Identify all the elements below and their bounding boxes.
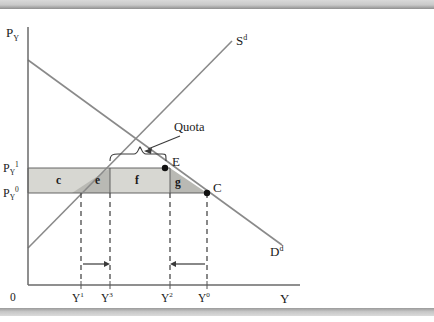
region-label-c: c [56,175,61,187]
point-E-marker [162,165,168,171]
price-label-p0: PY0 [3,186,19,202]
quota-arrow [144,136,180,154]
y-axis-label: PY [6,26,19,43]
quota-brace [110,147,166,161]
demand-curve [28,60,282,245]
region-label-f: f [135,175,139,187]
arrow-right-y1-to-y3 [83,261,110,267]
supply-curve [28,41,232,248]
point-E-label: E [172,155,180,168]
demand-curve-label: Dd [270,245,283,258]
region-label-g: g [175,177,181,189]
arrow-left-y0-to-y2 [170,261,205,267]
price-label-p1: PY1 [3,161,19,177]
x-axis-label: Y [280,292,289,305]
point-C-marker [204,190,210,196]
quota-annotation-label: Quota [174,121,205,134]
region-label-e: e [95,175,100,187]
supply-curve-label: Sd [236,34,247,47]
tick-label-y1: Y1 [72,292,84,304]
tick-label-y0: Y0 [198,292,210,304]
origin-label: 0 [10,292,16,304]
plot-area: PY Y 0 PY1 PY0 Y1 Y3 Y2 Y0 Sd Dd E C c [0,9,434,308]
point-C-label: C [213,181,222,194]
tick-label-y2: Y2 [161,292,173,304]
quota-diagram-figure: PY Y 0 PY1 PY0 Y1 Y3 Y2 Y0 Sd Dd E C c [0,0,434,322]
top-rule-bar [0,0,434,9]
diagram-canvas [0,9,434,308]
region-f-shape [110,168,170,193]
tick-label-y3: Y3 [101,292,113,304]
bottom-rule-bar [0,308,434,316]
